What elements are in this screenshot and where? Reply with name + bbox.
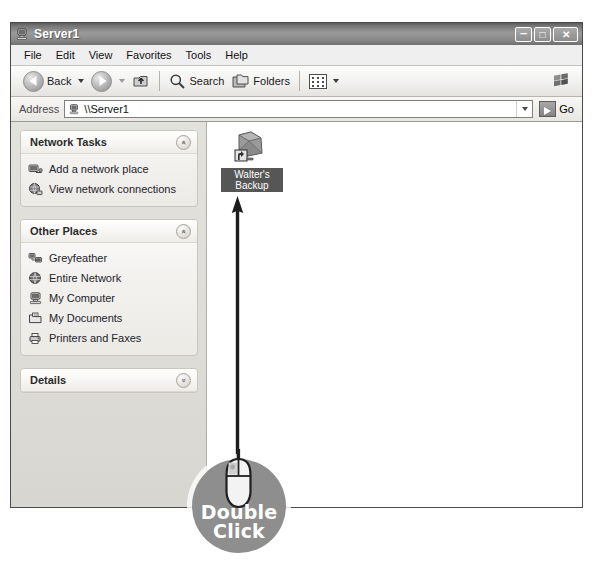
search-label: Search: [189, 75, 224, 87]
back-history-dropdown-icon[interactable]: [78, 79, 84, 83]
panel-body-other-places: Greyfeather Entire Network: [21, 243, 197, 355]
windows-flag-icon: [552, 72, 570, 88]
sidebar-item-greyfeather[interactable]: Greyfeather: [28, 248, 193, 268]
sidebar-item-label: My Documents: [49, 312, 122, 324]
go-button[interactable]: Go: [539, 101, 578, 117]
file-list-pane[interactable]: Walter's Backup: [207, 122, 582, 507]
explorer-window: Server1 – □ ✕ File Edit View Favorites T…: [10, 22, 583, 508]
forward-arrow-icon: [91, 71, 112, 92]
add-network-place-icon: [28, 162, 43, 176]
sidebar-item-printers-and-faxes[interactable]: Printers and Faxes: [28, 328, 193, 348]
back-label: Back: [47, 75, 71, 87]
forward-history-dropdown-icon[interactable]: [119, 79, 125, 83]
back-arrow-icon: [23, 71, 44, 92]
window-title: Server1: [34, 27, 79, 41]
toolbar-separator-2: [299, 71, 300, 91]
sidebar-item-my-computer[interactable]: My Computer: [28, 288, 193, 308]
callout-text: Double Click: [192, 503, 286, 541]
minimize-glyph: –: [516, 28, 531, 41]
address-dropdown-icon[interactable]: [516, 101, 532, 117]
forward-button[interactable]: [87, 69, 116, 94]
sidebar-item-label: Greyfeather: [49, 252, 107, 264]
menu-item-view[interactable]: View: [82, 47, 120, 63]
window-body: Network Tasks «: [11, 122, 582, 507]
computer-icon: [68, 103, 80, 115]
menu-item-help[interactable]: Help: [218, 47, 255, 63]
file-item-label: Walter's Backup: [221, 168, 283, 192]
sidebar-item-label: My Computer: [49, 292, 115, 304]
sidebar-item-label: Printers and Faxes: [49, 332, 141, 344]
title-bar: Server1 – □ ✕: [11, 23, 582, 45]
menu-item-tools[interactable]: Tools: [179, 47, 219, 63]
menu-item-edit[interactable]: Edit: [49, 47, 82, 63]
sidebar-item-label: View network connections: [49, 183, 176, 195]
menu-item-file[interactable]: File: [17, 47, 49, 63]
search-button[interactable]: Search: [165, 71, 228, 92]
chevron-glyph: «: [177, 225, 190, 238]
minimize-button[interactable]: –: [515, 27, 532, 42]
folders-icon: [232, 74, 250, 89]
maximize-glyph: □: [535, 28, 550, 41]
chevron-down-icon[interactable]: »: [176, 373, 191, 388]
my-computer-icon: [28, 291, 43, 305]
sidebar-item-add-a-network-place[interactable]: Add a network place: [28, 159, 193, 179]
up-folder-icon: [132, 72, 150, 90]
callout-line-2: Click: [192, 522, 286, 541]
file-item-walters-backup[interactable]: Walter's Backup: [221, 128, 283, 192]
chevron-glyph: »: [177, 374, 190, 387]
window-controls: – □ ✕: [515, 27, 580, 42]
search-icon: [169, 73, 186, 90]
sidebar-item-label: Add a network place: [49, 163, 149, 175]
sidebar-item-my-documents[interactable]: My Documents: [28, 308, 193, 328]
address-input[interactable]: \\Server1: [64, 100, 533, 118]
chevron-up-icon[interactable]: «: [176, 135, 191, 150]
address-value: \\Server1: [84, 103, 516, 115]
panel-details: Details »: [20, 368, 198, 393]
my-documents-icon: [28, 311, 43, 325]
panel-network-tasks: Network Tasks «: [20, 130, 198, 207]
panel-title-network-tasks: Network Tasks: [30, 136, 176, 148]
sidebar-item-view-network-connections[interactable]: View network connections: [28, 179, 193, 199]
panel-body-network-tasks: Add a network place View network connect…: [21, 154, 197, 206]
panel-header-details[interactable]: Details »: [21, 369, 197, 392]
shared-folder-icon: [221, 128, 283, 168]
workgroup-icon: [28, 251, 43, 265]
close-glyph: ✕: [554, 28, 577, 41]
address-label: Address: [19, 103, 59, 115]
panel-title-details: Details: [30, 374, 176, 386]
back-button[interactable]: Back: [19, 69, 75, 94]
views-icon: [309, 74, 327, 89]
menu-bar: File Edit View Favorites Tools Help: [11, 45, 582, 66]
computer-icon: [15, 27, 29, 41]
panel-title-other-places: Other Places: [30, 225, 176, 237]
toolbar-separator-1: [159, 71, 160, 91]
printers-and-faxes-icon: [28, 331, 43, 345]
address-bar: Address \\Server1 Go: [11, 97, 582, 122]
chevron-up-icon[interactable]: «: [176, 224, 191, 239]
sidebar-item-label: Entire Network: [49, 272, 121, 284]
up-button[interactable]: [128, 70, 154, 92]
panel-other-places: Other Places «: [20, 219, 198, 356]
double-click-callout: Double Click: [192, 459, 286, 575]
task-sidebar: Network Tasks «: [11, 122, 207, 507]
globe-network-icon: [28, 271, 43, 285]
folders-button[interactable]: Folders: [228, 72, 294, 91]
panel-header-other-places[interactable]: Other Places «: [21, 220, 197, 243]
go-arrow-icon: [539, 101, 556, 117]
views-button[interactable]: [305, 72, 346, 91]
panel-header-network-tasks[interactable]: Network Tasks «: [21, 131, 197, 154]
maximize-button[interactable]: □: [534, 27, 551, 42]
chevron-glyph: «: [177, 136, 190, 149]
go-label: Go: [559, 103, 574, 115]
toolbar: Back Search: [11, 66, 582, 97]
menu-item-favorites[interactable]: Favorites: [119, 47, 178, 63]
folders-label: Folders: [253, 75, 290, 87]
close-button[interactable]: ✕: [553, 27, 578, 42]
up-arrow-annotation: [231, 196, 244, 486]
sidebar-item-entire-network[interactable]: Entire Network: [28, 268, 193, 288]
network-connections-icon: [28, 182, 43, 196]
views-dropdown-icon[interactable]: [333, 79, 339, 83]
